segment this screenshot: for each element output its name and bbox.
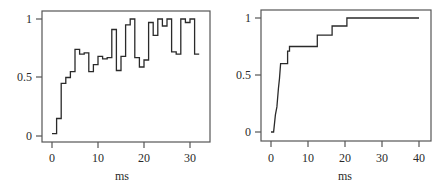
left-xtick-label-30: 30 [184, 151, 196, 165]
left-ytick-label-0.5: 0.5 [17, 70, 32, 84]
right-ytick-label-0.5: 0.5 [236, 68, 251, 82]
right-xtick-label-40: 40 [413, 151, 425, 165]
left-ytick-label-1: 1 [26, 12, 32, 26]
left-xtick-label-10: 10 [92, 151, 104, 165]
right-step-trace [271, 18, 419, 132]
right-xtick-label-20: 20 [339, 151, 351, 165]
figure: 1 0.5 0 0 10 20 30 ms 1 0.5 0 0 10 20 30… [0, 0, 444, 189]
left-xtick-label-20: 20 [138, 151, 150, 165]
left-chart: 1 0.5 0 0 10 20 30 ms [17, 11, 210, 183]
left-xtick-label-0: 0 [49, 151, 55, 165]
right-chart: 1 0.5 0 0 10 20 30 40 ms [236, 10, 431, 183]
right-plot-frame [261, 10, 431, 141]
right-xaxis-label: ms [338, 169, 352, 183]
left-xaxis-label: ms [115, 169, 129, 183]
right-xtick-label-10: 10 [302, 151, 314, 165]
left-step-trace [52, 19, 199, 134]
right-ytick-label-0: 0 [245, 125, 251, 139]
right-xtick-label-0: 0 [268, 151, 274, 165]
right-ytick-label-1: 1 [245, 11, 251, 25]
right-xtick-label-30: 30 [376, 151, 388, 165]
left-ytick-label-0: 0 [26, 129, 32, 143]
